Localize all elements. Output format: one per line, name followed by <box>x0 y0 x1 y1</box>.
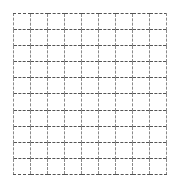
grid-cell <box>65 158 82 174</box>
grid-cell-label <box>150 143 166 158</box>
grid-cell-label <box>99 111 115 126</box>
grid-cell <box>48 126 65 142</box>
grid-cell-label <box>99 94 115 109</box>
grid-cell <box>31 46 48 62</box>
grid-cell <box>82 158 99 174</box>
grid-cell-label <box>65 30 81 45</box>
grid-cell <box>65 30 82 46</box>
grid-cell <box>48 78 65 94</box>
grid-cell <box>99 110 116 126</box>
grid-cell-label <box>150 159 166 174</box>
grid-cell <box>48 110 65 126</box>
grid-cell-label <box>14 30 30 45</box>
grid-cell <box>150 62 167 78</box>
grid-cell <box>31 110 48 126</box>
grid-cell <box>65 142 82 158</box>
grid-cell <box>14 46 31 62</box>
grid-cell-label <box>116 46 132 61</box>
grid-cell <box>133 142 150 158</box>
grid-cell <box>82 94 99 110</box>
grid-cell-label <box>133 78 149 93</box>
grid-cell-label <box>65 143 81 158</box>
grid-cell-label <box>133 159 149 174</box>
grid-cell <box>31 30 48 46</box>
table-row <box>14 142 167 158</box>
grid-cell <box>99 158 116 174</box>
grid-cell <box>48 158 65 174</box>
grid-cell-label <box>99 78 115 93</box>
grid-cell-label <box>48 46 64 61</box>
grid-cell <box>82 14 99 30</box>
grid-cell-label <box>150 94 166 109</box>
grid-cell <box>99 46 116 62</box>
grid-cell-label <box>65 159 81 174</box>
grid-cell <box>99 14 116 30</box>
grid-cell-label <box>99 14 115 29</box>
grid-cell <box>82 142 99 158</box>
dashed-grid-table <box>13 13 167 175</box>
grid-cell-label <box>14 111 30 126</box>
grid-cell-label <box>116 30 132 45</box>
grid-cell <box>150 158 167 174</box>
grid-cell <box>31 78 48 94</box>
grid-cell-label <box>99 62 115 77</box>
grid-cell-label <box>99 143 115 158</box>
grid-cell-label <box>116 143 132 158</box>
table-row <box>14 126 167 142</box>
grid-cell <box>14 158 31 174</box>
grid-cell-label <box>65 111 81 126</box>
grid-cell <box>31 142 48 158</box>
grid-cell <box>14 126 31 142</box>
grid-cell <box>82 46 99 62</box>
grid-cell <box>99 126 116 142</box>
grid-cell-label <box>82 30 98 45</box>
grid-cell <box>133 158 150 174</box>
grid-cell-label <box>82 127 98 142</box>
grid-cell <box>150 46 167 62</box>
grid-cell <box>82 126 99 142</box>
grid-cell-label <box>82 46 98 61</box>
grid-cell <box>31 126 48 142</box>
grid-cell-label <box>82 62 98 77</box>
grid-cell-label <box>99 46 115 61</box>
grid-cell <box>133 126 150 142</box>
grid-cell-label <box>150 46 166 61</box>
grid-cell-label <box>133 46 149 61</box>
grid-cell-label <box>82 78 98 93</box>
grid-cell <box>99 142 116 158</box>
grid-cell-label <box>133 127 149 142</box>
grid-cell-label <box>65 78 81 93</box>
grid-cell-label <box>150 127 166 142</box>
table-row <box>14 14 167 30</box>
grid-cell <box>133 30 150 46</box>
grid-cell <box>14 62 31 78</box>
grid-cell-label <box>48 30 64 45</box>
grid-cell-label <box>14 143 30 158</box>
grid-cell-label <box>48 159 64 174</box>
grid-cell <box>150 30 167 46</box>
grid-cell <box>65 94 82 110</box>
grid-cell-label <box>99 127 115 142</box>
grid-cell-label <box>48 143 64 158</box>
grid-cell <box>48 14 65 30</box>
grid-cell <box>150 94 167 110</box>
grid-cell <box>82 78 99 94</box>
grid-cell-label <box>14 94 30 109</box>
grid-cell-label <box>31 127 47 142</box>
table-row <box>14 62 167 78</box>
grid-cell <box>150 14 167 30</box>
grid-cell <box>48 142 65 158</box>
grid-cell <box>99 30 116 46</box>
grid-cell <box>65 14 82 30</box>
grid-cell <box>82 110 99 126</box>
grid-cell-label <box>150 78 166 93</box>
grid-cell <box>150 142 167 158</box>
grid-cell-label <box>65 46 81 61</box>
grid-cell-label <box>82 111 98 126</box>
grid-cell-label <box>14 127 30 142</box>
grid-cell-label <box>65 14 81 29</box>
grid-cell <box>133 62 150 78</box>
grid-cell <box>48 30 65 46</box>
grid-cell-label <box>133 94 149 109</box>
grid-body <box>14 14 167 175</box>
